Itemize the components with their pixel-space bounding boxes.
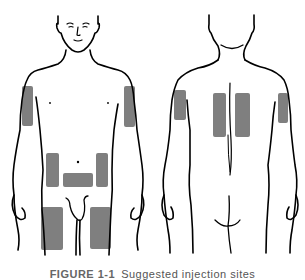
- front-head-outline: [57, 16, 100, 52]
- site-left-upper-back: [213, 93, 226, 137]
- back-left-torso: [187, 100, 193, 253]
- back-body-figure: [162, 15, 298, 253]
- site-left-abdomen: [46, 153, 59, 187]
- figure-caption-text: Suggested injection sites: [121, 268, 255, 280]
- site-right-thigh: [90, 207, 111, 249]
- back-spine-secondary: [228, 135, 230, 172]
- site-right-upper-back: [235, 93, 250, 137]
- back-neck-line: [221, 45, 243, 49]
- back-spine: [230, 83, 232, 175]
- front-right-nipple: [107, 102, 109, 104]
- site-back-right-arm: [278, 93, 288, 123]
- figure-caption-label: FIGURE 1-1: [50, 268, 116, 280]
- site-back-left-arm: [174, 90, 186, 120]
- back-buttocks: [215, 196, 240, 253]
- front-inner-leg: [76, 220, 80, 255]
- front-left-nipple: [49, 102, 51, 104]
- front-injection-sites: [22, 86, 135, 250]
- front-navel: [77, 161, 79, 163]
- front-right-torso: [109, 104, 118, 255]
- site-lower-abdomen: [63, 173, 93, 187]
- front-body-figure: [12, 16, 144, 255]
- site-right-abdomen: [96, 153, 108, 187]
- front-left-torso: [36, 97, 45, 255]
- front-groin: [66, 196, 88, 221]
- figure-caption: FIGURE 1-1Suggested injection sites: [0, 268, 305, 280]
- back-right-side-outline: [245, 60, 297, 253]
- back-head-outline: [209, 15, 255, 60]
- back-right-torso: [266, 102, 275, 253]
- front-face: [67, 23, 89, 41]
